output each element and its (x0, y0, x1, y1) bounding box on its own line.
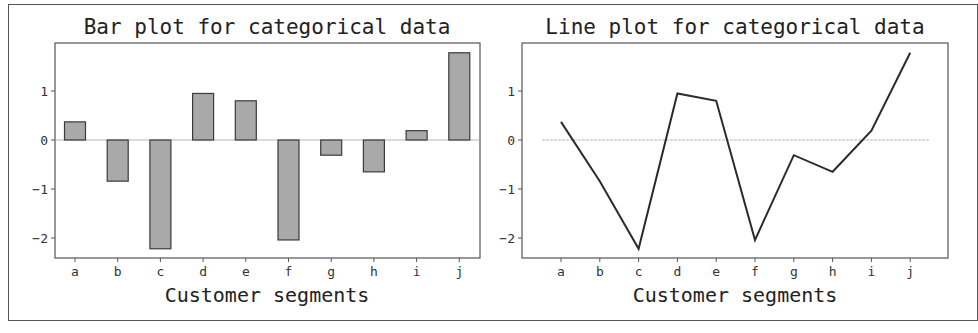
bar-series (65, 53, 470, 249)
y-tick-label: 1 (40, 84, 48, 99)
x-tick-label: c (156, 264, 164, 279)
y-tick-label: −2 (32, 231, 48, 246)
x-tick-label: a (557, 264, 565, 279)
bar-i (406, 131, 427, 140)
bar-y-axis: 10−1−2 (32, 84, 55, 246)
x-tick-label: e (242, 264, 250, 279)
x-tick-label: i (413, 264, 421, 279)
x-tick-label: h (829, 264, 837, 279)
y-tick-label: −2 (499, 231, 515, 246)
bar-chart-title: Bar plot for categorical data (84, 15, 451, 39)
line-chart-title: Line plot for categorical data (545, 15, 924, 39)
bar-c (150, 140, 171, 249)
x-tick-label: b (596, 264, 604, 279)
x-tick-label: d (673, 264, 681, 279)
bar-a (65, 122, 86, 140)
x-tick-label: g (327, 264, 335, 279)
x-tick-label: e (712, 264, 720, 279)
x-tick-label: h (370, 264, 378, 279)
y-tick-label: −1 (499, 182, 515, 197)
x-tick-label: d (199, 264, 207, 279)
bar-f (278, 140, 299, 240)
x-tick-label: i (867, 264, 875, 279)
x-tick-label: g (790, 264, 798, 279)
bar-b (107, 140, 128, 181)
line-series (561, 53, 910, 249)
y-tick-label: 0 (40, 133, 48, 148)
y-tick-label: −1 (32, 182, 48, 197)
bar-x-axis-label: Customer segments (165, 283, 370, 307)
x-tick-label: b (114, 264, 122, 279)
x-tick-label: c (635, 264, 643, 279)
line-x-axis: abcdefghij (557, 258, 914, 279)
x-tick-label: f (751, 264, 759, 279)
x-tick-label: j (455, 264, 463, 279)
bar-e (235, 101, 256, 140)
bar-chart: Bar plot for categorical data 10−1−2 abc… (32, 15, 480, 307)
bar-d (193, 93, 214, 140)
bar-g (321, 140, 342, 155)
line-y-axis: 10−1−2 (499, 84, 522, 246)
bar-j (449, 53, 470, 140)
line-plot-area (522, 43, 948, 258)
y-tick-label: 1 (507, 84, 515, 99)
line-x-axis-label: Customer segments (633, 283, 838, 307)
bar-h (363, 140, 384, 172)
x-tick-label: j (906, 264, 914, 279)
line-chart: Line plot for categorical data 10−1−2 ab… (499, 15, 948, 307)
bar-x-axis: abcdefghij (71, 258, 463, 279)
y-tick-label: 0 (507, 133, 515, 148)
x-tick-label: f (285, 264, 293, 279)
x-tick-label: a (71, 264, 79, 279)
